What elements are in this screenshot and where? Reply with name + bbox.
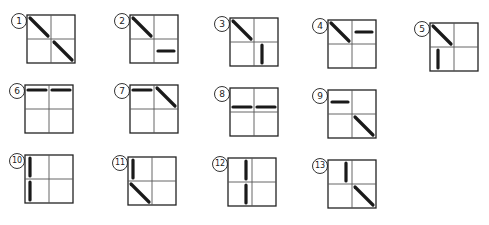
- item-number: 6: [9, 83, 25, 99]
- stroke-d: [233, 21, 251, 39]
- grid-2x2: [328, 160, 376, 208]
- grid-2x2: [328, 20, 376, 68]
- item-number: 9: [312, 88, 328, 104]
- stroke-d: [331, 23, 349, 41]
- grid-2x2: [128, 157, 176, 205]
- item-number: 8: [214, 86, 230, 102]
- stroke-d: [30, 18, 48, 36]
- grid-2x2: [430, 23, 478, 71]
- stroke-d: [355, 117, 373, 135]
- item-number: 5: [414, 21, 430, 37]
- grid-2x2: [228, 158, 276, 206]
- grid-2x2: [230, 88, 278, 136]
- grid-2x2: [130, 85, 178, 133]
- grid-2x2: [25, 85, 73, 133]
- grid-2x2: [130, 15, 178, 63]
- grid-2x2: [27, 15, 75, 63]
- item-number: 13: [312, 158, 328, 174]
- item-number: 11: [112, 155, 128, 171]
- grid-2x2: [25, 155, 73, 203]
- stroke-d: [433, 26, 451, 44]
- stroke-d: [355, 187, 373, 205]
- stroke-d: [131, 184, 149, 202]
- item-number: 7: [114, 83, 130, 99]
- item-number: 2: [114, 13, 130, 29]
- item-number: 4: [312, 18, 328, 34]
- item-number: 1: [11, 13, 27, 29]
- item-number: 12: [212, 156, 228, 172]
- item-number: 3: [214, 16, 230, 32]
- stroke-d: [157, 88, 175, 106]
- item-number: 10: [9, 153, 25, 169]
- stroke-d: [133, 18, 151, 36]
- stroke-d: [54, 42, 72, 60]
- grid-2x2: [230, 18, 278, 66]
- grid-2x2: [328, 90, 376, 138]
